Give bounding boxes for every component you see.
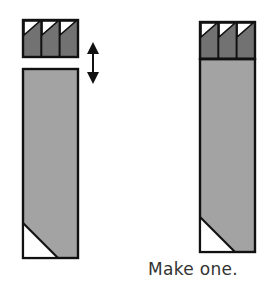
figure-after-assembly <box>200 22 255 252</box>
long-body-piece <box>200 59 255 252</box>
top-block-three-cells <box>23 20 78 57</box>
instruction-caption: Make one. <box>148 259 238 279</box>
long-body-piece <box>23 69 78 258</box>
assembly-diagram <box>0 0 276 287</box>
double-arrow-icon <box>87 42 99 84</box>
top-block-three-cells <box>200 22 255 59</box>
figure-before-assembly <box>23 20 99 258</box>
